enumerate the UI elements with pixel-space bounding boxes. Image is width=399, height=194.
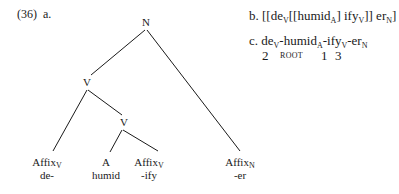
part-b-label: b. [249,8,259,23]
branch-v-a [110,130,122,152]
node-n: N [142,16,150,28]
order-de: 2 [262,48,269,64]
leaf-form: -er [225,169,254,181]
node-v-lower-label: V [120,116,128,128]
order-ify: 1 [321,48,328,64]
leaf-form: -ify [134,169,163,181]
bracketing-expression: [[deV[[humidA] ifyV]] erN] [262,8,396,23]
leaf-cat-sub: N [249,161,255,170]
branch-n-v [91,30,145,75]
order-root: ROOT [280,51,303,60]
leaf-affix-de: AffixV de- [32,156,61,181]
order-er: 3 [335,48,342,64]
leaf-cat: Affix [32,156,56,168]
leaf-a-humid: A humid [92,156,120,181]
node-v-lower: V [120,116,128,128]
leaf-cat: A [102,156,110,168]
leaf-cat: Affix [225,156,249,168]
linear-expression: deV-humidA-ifyV-erN [261,33,367,48]
part-c-label: c. [249,33,258,48]
node-v-upper-label: V [83,76,91,88]
node-v-upper: V [83,76,91,88]
bracketing-line: b. [[deV[[humidA] ifyV]] erN] [249,8,396,24]
branch-v-v [88,90,122,115]
leaf-cat-sub: V [56,161,62,170]
leaf-form: de- [32,169,61,181]
node-n-label: N [142,16,150,28]
linear-line: c. deV-humidA-ifyV-erN [249,33,367,49]
leaf-form: humid [92,169,120,181]
branch-v-affix-ify [123,130,158,151]
leaf-affix-ify: AffixV -ify [134,156,163,181]
leaf-cat-sub: V [158,161,164,170]
branch-v-affix-de [53,90,87,151]
branch-n-affix-n [147,30,240,151]
leaf-cat: Affix [134,156,158,168]
leaf-affix-er: AffixN -er [225,156,254,181]
